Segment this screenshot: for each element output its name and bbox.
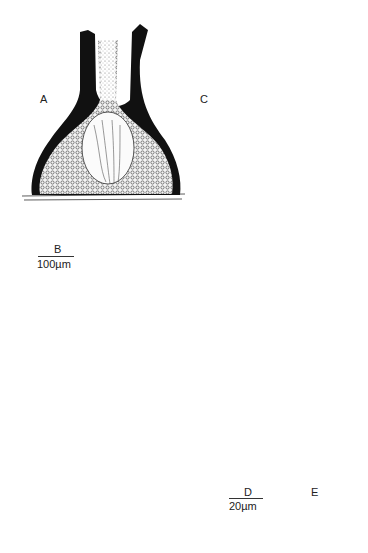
scale-bar-b — [38, 256, 74, 257]
panel-label-c: C — [200, 94, 208, 105]
panel-a-perithecium — [22, 24, 185, 200]
scale-value-d: 20µm — [229, 501, 257, 512]
figure-plate — [0, 0, 368, 553]
scale-bar-d — [229, 498, 263, 499]
panel-label-a: A — [40, 94, 47, 105]
scale-value-b: 100µm — [37, 259, 71, 270]
panel-a-neck — [101, 40, 115, 100]
panel-label-e: E — [311, 487, 318, 498]
scale-label-d: D — [244, 487, 252, 498]
panel-a-asci — [82, 112, 134, 184]
scale-label-b: B — [54, 244, 61, 255]
